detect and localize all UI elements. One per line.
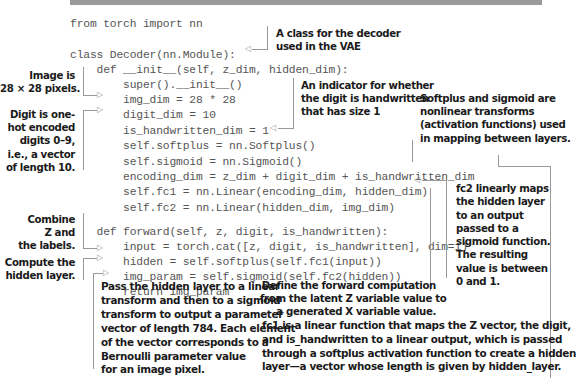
- connector-line: [83, 110, 84, 170]
- section-header-bar: [70, 0, 542, 5]
- connector-line: [83, 213, 84, 249]
- connector-line: [422, 180, 447, 181]
- connector-line: [83, 110, 97, 111]
- connector-line: [83, 258, 97, 259]
- code-line-8: is_handwritten_dim = 1: [70, 124, 269, 139]
- arrow-right-icon: ▷: [103, 269, 109, 277]
- code-line-16: input = torch.cat([z, digit, is_handwrit…: [70, 240, 468, 255]
- connector-line: [430, 188, 431, 291]
- connector-line: [252, 49, 268, 50]
- connector-line: [93, 273, 94, 369]
- code-line-1: from torch import nn: [70, 17, 203, 32]
- connector-line: [83, 95, 97, 96]
- annotation-combine: Combine Z and the labels.: [0, 213, 75, 253]
- code-line-15: def forward(self, z, digit, is_handwritt…: [70, 225, 388, 240]
- arrow-left-icon: ◁: [414, 176, 420, 184]
- annotation-class-decoder: A class for the decoder used in the VAE: [276, 27, 401, 53]
- arrow-right-icon: ▷: [97, 254, 103, 262]
- code-line-10: self.sigmoid = nn.Sigmoid(): [70, 155, 302, 170]
- code-line-12: self.fc1 = nn.Linear(encoding_dim, hidde…: [70, 185, 428, 200]
- connector-line: [278, 128, 294, 129]
- connector-line: [498, 166, 551, 167]
- arrow-right-icon: ▷: [97, 244, 103, 252]
- annotation-fc2: fc2 linearly maps the hidden layer to an…: [456, 182, 550, 288]
- code-line-17: hidden = self.softplus(self.fc1(input)): [70, 255, 382, 270]
- connector-line: [412, 140, 413, 162]
- arrow-left-icon: ◁: [270, 124, 276, 132]
- arrow-right-icon: ▷: [97, 106, 103, 114]
- annotation-digit-onehot: Digit is one- hot encoded digits 0–9, i.…: [0, 108, 75, 174]
- code-line-3: class Decoder(nn.Module):: [70, 48, 236, 63]
- annotation-compute-hidden: Compute the hidden layer.: [0, 256, 75, 282]
- connector-line: [446, 180, 447, 278]
- connector-line: [267, 26, 268, 50]
- connector-line: [83, 67, 84, 95]
- annotation-fc1: fc1 is a linear function that maps the Z…: [262, 319, 542, 374]
- code-line-9: self.softplus = nn.Softplus(): [70, 139, 315, 154]
- connector-line: [83, 248, 97, 249]
- connector-line: [83, 258, 84, 280]
- connector-line: [293, 78, 294, 129]
- annotation-image-size: Image is 28 × 28 pixels.: [0, 69, 75, 95]
- code-line-5: super().__init__(): [70, 78, 242, 93]
- annotation-activations: Softplus and sigmoid are nonlinear trans…: [420, 92, 571, 145]
- arrow-left-icon: ◁: [245, 45, 251, 53]
- connector-line: [93, 273, 103, 274]
- code-line-13: self.fc2 = nn.Linear(hidden_dim, img_dim…: [70, 201, 395, 216]
- connector-line: [412, 140, 413, 141]
- code-line-4: def __init__(self, z_dim, hidden_dim):: [70, 63, 348, 78]
- annotation-is-handwritten: An indicator for whether the digit is ha…: [301, 79, 434, 119]
- arrow-right-icon: ▷: [97, 91, 103, 99]
